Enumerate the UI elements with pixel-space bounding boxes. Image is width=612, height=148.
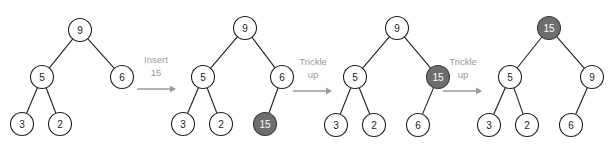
- tree-node-5: 5: [499, 66, 522, 89]
- node-value: 5: [39, 72, 45, 83]
- node-value: 9: [242, 23, 248, 34]
- tree-node-6: 6: [271, 66, 294, 89]
- step-insert-15: Insert15: [137, 54, 176, 92]
- step-arrow-head: [170, 86, 176, 93]
- tree-edge: [88, 39, 115, 69]
- tree-edge: [340, 88, 351, 115]
- node-value: 5: [507, 72, 513, 83]
- tree-node-9: 9: [581, 66, 604, 89]
- tree-node-3: 3: [172, 113, 195, 136]
- tree-edge: [404, 37, 430, 68]
- node-value: 2: [57, 119, 63, 130]
- step-label-line: up: [458, 69, 469, 80]
- node-value: 3: [180, 119, 186, 130]
- tree-edge: [188, 88, 199, 114]
- tree-node-3: 3: [478, 114, 501, 137]
- node-value: 3: [486, 120, 492, 131]
- tree-node-6: 6: [111, 66, 134, 89]
- tree-node-2: 2: [516, 114, 539, 137]
- tree-node-6: 6: [407, 114, 430, 137]
- node-value: 5: [200, 72, 206, 83]
- node-value: 9: [589, 72, 595, 83]
- heap-insert-diagram: Insert15TrickleupTrickleup 9563295632159…: [0, 0, 612, 148]
- tree-edge: [269, 88, 278, 113]
- tree-edge: [359, 88, 370, 115]
- node-value: 2: [371, 120, 377, 131]
- node-value: 6: [415, 120, 421, 131]
- node-value: 6: [119, 72, 125, 83]
- tree-nodes-tree-after-trickle-2: 1559326: [478, 17, 604, 137]
- tree-node-2: 2: [363, 114, 386, 137]
- node-value: 15: [432, 72, 444, 83]
- tree-node-9: 9: [386, 17, 409, 40]
- tree-edge: [49, 39, 73, 68]
- step-arrow-head: [476, 88, 482, 95]
- tree-edge: [557, 37, 585, 69]
- tree-edge: [494, 88, 506, 115]
- tree-edge: [576, 88, 588, 115]
- node-value: 2: [524, 120, 530, 131]
- tree-nodes-tree-after-trickle-1: 9515326: [325, 17, 450, 137]
- node-value: 9: [394, 23, 400, 34]
- tree-edge: [514, 88, 523, 114]
- tree-node-5: 5: [192, 66, 215, 89]
- node-value: 15: [259, 119, 271, 130]
- step-label-line: Trickle: [299, 56, 327, 67]
- step-trickle-up-1: Trickleup: [293, 56, 332, 94]
- diagram-canvas: Insert15TrickleupTrickleup 9563295632159…: [0, 0, 612, 148]
- tree-node-3: 3: [325, 114, 348, 137]
- node-value: 6: [568, 120, 574, 131]
- node-value: 6: [279, 72, 285, 83]
- tree-edge: [210, 37, 237, 69]
- step-label-line: Trickle: [449, 56, 477, 67]
- tree-edge: [46, 88, 56, 114]
- node-value: 5: [352, 72, 358, 83]
- step-label-line: up: [308, 69, 319, 80]
- tree-edge: [252, 37, 275, 68]
- node-value: 15: [543, 23, 555, 34]
- node-value: 3: [333, 120, 339, 131]
- tree-node-5: 5: [344, 66, 367, 89]
- step-label-line: Insert: [144, 54, 168, 65]
- tree-node-15-highlighted: 15: [254, 113, 277, 136]
- tree-edge: [362, 37, 389, 69]
- step-arrow-head: [326, 88, 332, 95]
- tree-node-15-highlighted: 15: [427, 66, 450, 89]
- tree-edge: [207, 88, 217, 114]
- tree-edge: [422, 88, 433, 115]
- tree-node-15-highlighted: 15: [538, 17, 561, 40]
- tree-nodes-tree-after-insert: 9563215: [172, 17, 294, 136]
- step-label-line: 15: [151, 67, 162, 78]
- tree-node-6: 6: [560, 114, 583, 137]
- tree-node-2: 2: [49, 113, 72, 136]
- node-value: 9: [77, 25, 83, 36]
- tree-node-3: 3: [11, 113, 34, 136]
- tree-node-5: 5: [31, 66, 54, 89]
- tree-node-2: 2: [210, 113, 233, 136]
- tree-edge: [27, 88, 38, 114]
- node-value: 2: [218, 119, 224, 130]
- tree-node-9: 9: [69, 19, 92, 42]
- tree-node-9: 9: [234, 17, 257, 40]
- node-value: 3: [19, 119, 25, 130]
- tree-nodes-tree-initial: 95632: [11, 19, 134, 136]
- tree-edge: [517, 37, 542, 68]
